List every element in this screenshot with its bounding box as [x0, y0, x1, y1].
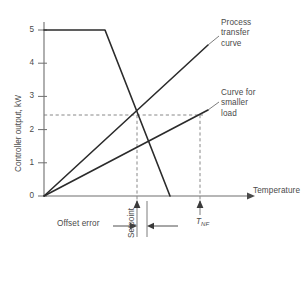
y-tick-label-3: 3: [22, 91, 34, 100]
y-tick-label-1: 1: [22, 158, 34, 167]
annotation-offset-error: Offset error: [57, 219, 99, 229]
leader-smaller-load: [208, 102, 219, 110]
offset-error-right-arrowhead: [147, 223, 154, 229]
y-tick-label-5: 5: [22, 25, 34, 34]
tnf-up-arrowhead: [197, 200, 204, 208]
y-tick-label-0: 0: [22, 191, 34, 200]
annotation-setpoint: Setpoint: [127, 208, 136, 238]
controller-output-curve: [44, 30, 170, 196]
process-transfer-curve-line: [44, 45, 208, 196]
annotation-curve-for-smaller-load: Curve for smaller load: [221, 88, 256, 119]
y-tick-label-4: 4: [22, 58, 34, 67]
y-axis-title: Controller output, kW: [14, 95, 23, 172]
x-axis-title: Temperature: [253, 186, 300, 196]
guide-dashed-lines: [44, 115, 203, 208]
t-nf-subscript: NF: [201, 221, 209, 227]
annotation-leader-lines: [208, 36, 219, 110]
data-curves: [44, 30, 208, 196]
chart-plot-area: [0, 0, 306, 293]
chart-figure: 5 4 3 2 1 0 Controller output, kW Temper…: [0, 0, 306, 293]
annotation-process-transfer-curve: Process transfer curve: [221, 18, 251, 49]
y-tick-label-2: 2: [22, 125, 34, 134]
setpoint-up-arrowhead: [134, 200, 141, 208]
annotation-t-nf: TNF: [196, 217, 209, 227]
leader-process-transfer: [208, 36, 219, 45]
curve-for-smaller-load-line: [44, 110, 208, 196]
y-axis-ticks: [38, 30, 47, 196]
